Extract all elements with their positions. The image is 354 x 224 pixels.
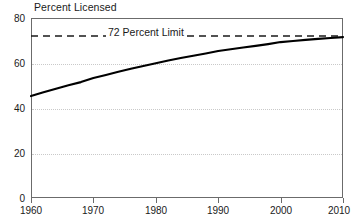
chart-root: Percent Licensed 80 60 40 20 0 1960 1970… <box>0 0 354 224</box>
series-line-percent-licensed <box>31 37 343 96</box>
limit-line-label: 72 Percent Limit <box>106 26 186 38</box>
